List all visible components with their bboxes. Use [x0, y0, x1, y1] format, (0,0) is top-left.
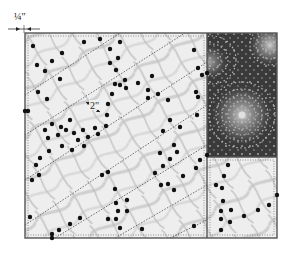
seam-allowance-label: ¼" [14, 11, 26, 22]
spacing-label: 2" [90, 100, 99, 111]
arrow-right-icon [16, 27, 20, 31]
quilt-diagram: ¼" [0, 0, 305, 253]
large-left-panel [25, 33, 207, 238]
arrow-left-icon [27, 27, 31, 31]
bottom-right-panel [207, 157, 282, 238]
seam-allowance-annotation: ¼" [8, 11, 40, 33]
